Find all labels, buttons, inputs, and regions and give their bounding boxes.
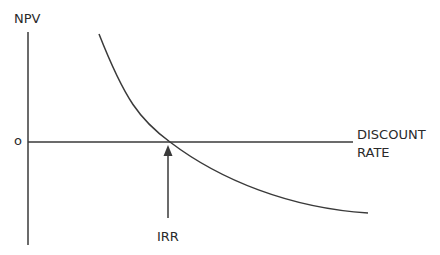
irr-label: IRR	[157, 229, 179, 245]
x-axis-label-line1: DISCOUNT	[357, 127, 426, 143]
y-axis-label: NPV	[14, 11, 40, 27]
origin-label: o	[14, 133, 22, 149]
npv-curve	[99, 34, 368, 213]
irr-arrow-head	[164, 145, 173, 156]
x-axis-label-line2: RATE	[357, 145, 390, 161]
